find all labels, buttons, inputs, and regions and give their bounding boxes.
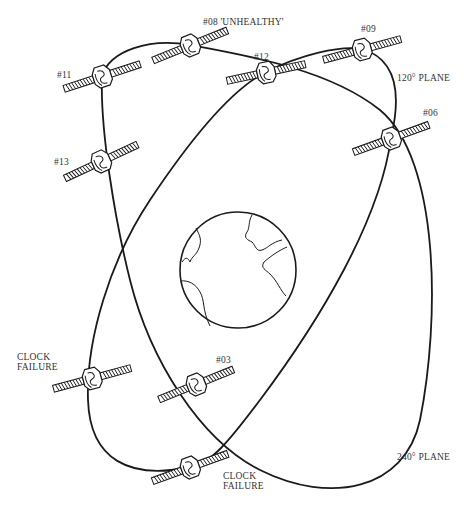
label-sat-09: #09 [361,24,376,34]
label-clock-failure-left-2: FAILURE [17,362,58,372]
label-sat-03: #03 [216,355,231,365]
satellite-clock-failure-left[interactable] [51,358,134,399]
satellite-13[interactable] [61,135,142,188]
label-clock-failure-bottom-1: CLOCK [223,471,256,481]
label-sat-13: #13 [54,157,69,167]
label-clock-failure-bottom-2: FAILURE [223,481,264,491]
label-sat-06: #06 [423,108,438,118]
label-clock-failure-left-1: CLOCK [17,352,50,362]
satellite-03[interactable] [155,360,237,409]
label-plane-120: 120° PLANE [397,73,450,83]
label-sat-11: #11 [57,70,72,80]
label-sat-08: #08 'UNHEALTHY' [203,17,284,27]
label-plane-240: 240° PLANE [397,452,450,462]
earth [180,212,296,328]
label-sat-12: #12 [254,52,269,62]
satellite-08[interactable] [149,21,231,70]
